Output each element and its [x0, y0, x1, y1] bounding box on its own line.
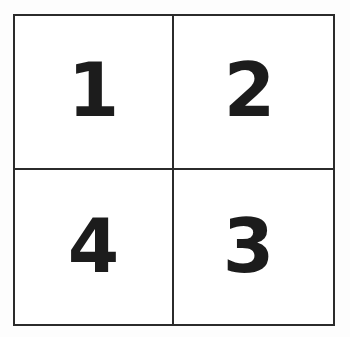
grid-cell-top-left[interactable]: 1: [15, 16, 174, 170]
grid-cell-label-bottom-left: 4: [68, 209, 120, 283]
grid-cell-label-bottom-right: 3: [223, 209, 275, 283]
grid-cell-bottom-right[interactable]: 3: [174, 170, 333, 324]
grid-cell-top-right[interactable]: 2: [174, 16, 333, 170]
figure-root: 1 2 4 3: [0, 0, 350, 337]
grid-cell-label-top-right: 2: [224, 53, 276, 127]
grid-cell-bottom-left[interactable]: 4: [15, 170, 174, 324]
quadrant-grid: 1 2 4 3: [13, 14, 335, 326]
grid-cell-label-top-left: 1: [68, 53, 120, 127]
